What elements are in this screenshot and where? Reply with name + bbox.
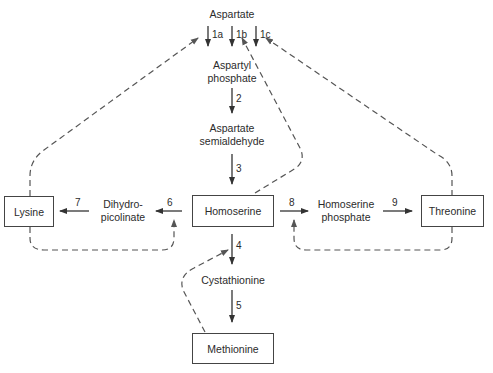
step-1c: 1c bbox=[260, 29, 271, 41]
dihydropicolinate-line1: Dihydro- bbox=[103, 198, 143, 210]
step-2: 2 bbox=[236, 93, 242, 105]
dihydropicolinate-line2: picolinate bbox=[101, 211, 145, 223]
node-cystathionine: Cystathionine bbox=[192, 274, 274, 287]
step-9: 9 bbox=[392, 197, 398, 209]
feedback-methionine-4 bbox=[182, 250, 228, 332]
step-8: 8 bbox=[289, 197, 295, 209]
step-3: 3 bbox=[236, 163, 242, 175]
homoserine-phosphate-line2: phosphate bbox=[321, 211, 370, 223]
step-1b: 1b bbox=[236, 29, 247, 41]
step-5: 5 bbox=[236, 300, 242, 312]
step-1a: 1a bbox=[212, 29, 223, 41]
aspartate-semialdehyde-line1: Aspartate bbox=[210, 122, 255, 134]
aspartate-semialdehyde-line2: semialdehyde bbox=[200, 135, 265, 147]
node-homoserine: Homoserine bbox=[192, 195, 274, 227]
step-7: 7 bbox=[75, 197, 81, 209]
homoserine-phosphate-line1: Homoserine bbox=[318, 198, 375, 210]
step-4: 4 bbox=[236, 240, 242, 252]
node-aspartate: Aspartate bbox=[200, 8, 264, 21]
feedback-lysine-1a bbox=[30, 38, 198, 196]
node-aspartyl-phosphate: Aspartyl phosphate bbox=[195, 59, 269, 85]
node-threonine: Threonine bbox=[421, 195, 484, 227]
aspartyl-phosphate-line1: Aspartyl bbox=[213, 59, 251, 71]
node-homoserine-phosphate: Homoserine phosphate bbox=[310, 198, 382, 224]
node-methionine: Methionine bbox=[192, 333, 274, 364]
step-6: 6 bbox=[167, 197, 173, 209]
node-aspartate-semialdehyde: Aspartate semialdehyde bbox=[190, 122, 274, 148]
node-lysine: Lysine bbox=[4, 196, 54, 227]
pathway-diagram bbox=[0, 0, 493, 373]
aspartyl-phosphate-line2: phosphate bbox=[207, 72, 256, 84]
node-dihydropicolinate: Dihydro- picolinate bbox=[92, 198, 154, 224]
feedback-threonine-1c bbox=[266, 38, 452, 196]
